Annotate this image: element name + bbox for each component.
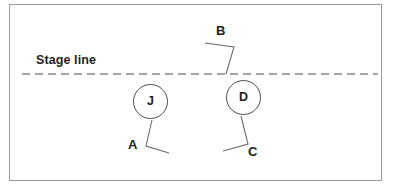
leader-line-b xyxy=(205,43,234,74)
annotation-label-a: A xyxy=(128,138,137,151)
node-j[interactable]: J xyxy=(133,84,168,119)
annotation-label-c: C xyxy=(248,145,257,158)
diagram-canvas: Stage line J D B A C xyxy=(0,0,406,187)
diagram-vector-layer xyxy=(0,0,406,187)
node-j-label: J xyxy=(147,95,154,108)
node-d[interactable]: D xyxy=(226,80,261,115)
leader-line-a xyxy=(146,120,169,153)
leader-line-c xyxy=(223,116,248,151)
annotation-label-b: B xyxy=(216,24,225,37)
node-d-label: D xyxy=(239,91,248,104)
stage-line-label: Stage line xyxy=(36,53,96,67)
